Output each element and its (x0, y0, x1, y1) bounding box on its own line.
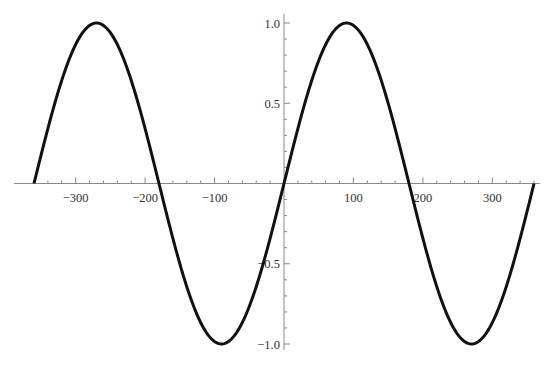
x-tick-label: −300 (63, 191, 89, 205)
x-tick-label: −200 (132, 191, 158, 205)
axes: −300−200−100100200300 1.00.5−0.5−1.0 (14, 14, 540, 352)
x-tick-label: 200 (414, 191, 433, 205)
y-tick-label: −1.0 (257, 338, 280, 352)
x-tick-label: 100 (344, 191, 363, 205)
x-tick-label: 300 (483, 191, 502, 205)
x-tick-label: −100 (202, 191, 228, 205)
y-tick-label: 1.0 (264, 17, 280, 31)
sine-chart: −300−200−100100200300 1.00.5−0.5−1.0 (0, 0, 552, 369)
y-tick-label: 0.5 (264, 97, 280, 111)
